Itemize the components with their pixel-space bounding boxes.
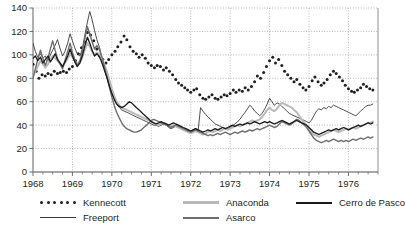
series-kennecott bbox=[32, 31, 375, 101]
y-axis-tick-label: 60 bbox=[16, 96, 27, 107]
x-axis-tick-label: 1971 bbox=[141, 178, 162, 189]
legend-label: Cerro de Pasco bbox=[339, 197, 405, 208]
legend-swatch-icon bbox=[40, 212, 76, 223]
legend-column: AnacondaAsarco bbox=[183, 195, 269, 225]
series-freeport bbox=[33, 12, 373, 133]
legend-label: Kennecott bbox=[83, 197, 126, 208]
y-axis-tick-label: 120 bbox=[11, 26, 27, 37]
x-axis-tick-label: 1975 bbox=[298, 178, 319, 189]
x-axis-tick-label: 1972 bbox=[180, 178, 201, 189]
y-axis-tick-label: 80 bbox=[16, 73, 27, 84]
x-axis-tick-label: 1976 bbox=[338, 178, 359, 189]
legend-label: Asarco bbox=[226, 212, 256, 223]
legend-label: Anaconda bbox=[226, 197, 269, 208]
y-axis-tick-label: 20 bbox=[16, 143, 27, 154]
x-axis-tick-label: 1968 bbox=[22, 178, 43, 189]
legend-column: KennecottFreeport bbox=[40, 195, 126, 225]
x-axis-tick-label: 1973 bbox=[220, 178, 241, 189]
legend-item-anaconda[interactable]: Anaconda bbox=[183, 195, 269, 210]
legend-column: Cerro de Pasco bbox=[296, 195, 405, 210]
x-axis-tick-label: 1969 bbox=[62, 178, 83, 189]
legend-item-asarco[interactable]: Asarco bbox=[183, 210, 269, 225]
series-anaconda bbox=[33, 43, 373, 137]
y-axis-tick-label: 140 bbox=[11, 2, 27, 13]
y-axis-tick-label: 0 bbox=[22, 166, 27, 177]
legend-label: Freeport bbox=[83, 212, 119, 223]
legend-swatch-icon bbox=[296, 197, 332, 208]
legend-swatch-icon bbox=[40, 197, 76, 208]
x-axis-tick-label: 1970 bbox=[101, 178, 122, 189]
legend-item-cerro-de-pasco[interactable]: Cerro de Pasco bbox=[296, 195, 405, 210]
legend-item-kennecott[interactable]: Kennecott bbox=[40, 195, 126, 210]
y-axis-tick-label: 100 bbox=[11, 49, 27, 60]
line-chart-plot: 0204060801001201401968196919701971197219… bbox=[0, 0, 395, 195]
legend-swatch-icon bbox=[183, 212, 219, 223]
chart-legend: KennecottFreeportAnacondaAsarcoCerro de … bbox=[0, 193, 395, 228]
legend-swatch-icon bbox=[183, 197, 219, 208]
legend-item-freeport[interactable]: Freeport bbox=[40, 210, 126, 225]
x-axis-tick-label: 1974 bbox=[259, 178, 280, 189]
y-axis-tick-label: 40 bbox=[16, 120, 27, 131]
